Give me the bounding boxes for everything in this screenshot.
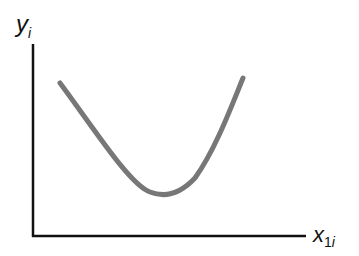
diagram: yi x1i <box>0 0 359 256</box>
x-axis-label: x1i <box>313 222 335 250</box>
u-shaped-curve <box>60 78 243 195</box>
plot-area <box>0 0 359 256</box>
y-axis-label: yi <box>16 10 31 41</box>
